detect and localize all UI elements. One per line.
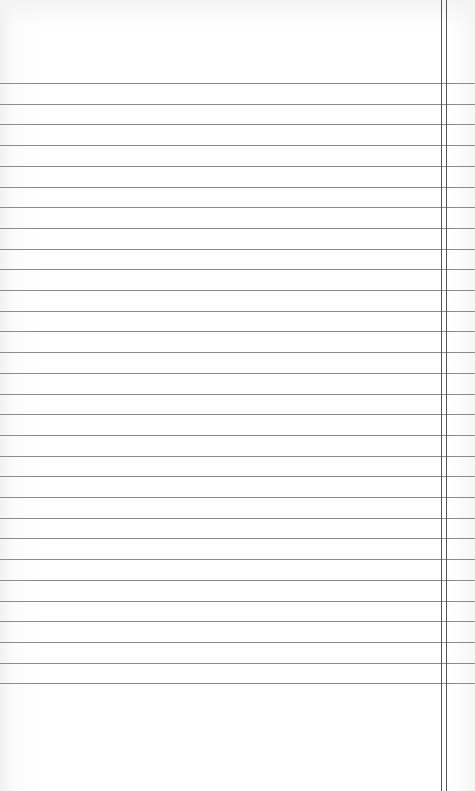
ruled-line <box>0 124 475 125</box>
ruled-line <box>0 104 475 105</box>
ruled-line <box>0 166 475 167</box>
ruled-line <box>0 331 475 332</box>
ruled-line <box>0 456 475 457</box>
notebook-paper <box>0 0 475 791</box>
ruled-line <box>0 145 475 146</box>
ruled-line <box>0 311 475 312</box>
ruled-line <box>0 187 475 188</box>
ruled-line <box>0 394 475 395</box>
ruled-line <box>0 290 475 291</box>
ruled-line <box>0 683 475 684</box>
ruled-line <box>0 642 475 643</box>
ruled-line <box>0 663 475 664</box>
ruled-line <box>0 414 475 415</box>
ruled-line <box>0 228 475 229</box>
ruled-line <box>0 476 475 477</box>
ruled-line <box>0 559 475 560</box>
ruled-line <box>0 621 475 622</box>
ruled-line <box>0 497 475 498</box>
faint-bleed-through <box>0 0 475 28</box>
ruled-line <box>0 207 475 208</box>
margin-line <box>441 0 442 791</box>
ruled-line <box>0 352 475 353</box>
ruled-line <box>0 373 475 374</box>
ruled-line <box>0 269 475 270</box>
ruled-line <box>0 249 475 250</box>
margin-line <box>446 0 447 791</box>
ruled-line <box>0 538 475 539</box>
ruled-line <box>0 435 475 436</box>
ruled-line <box>0 601 475 602</box>
ruled-line <box>0 518 475 519</box>
ruled-line <box>0 83 475 84</box>
ruled-line <box>0 580 475 581</box>
